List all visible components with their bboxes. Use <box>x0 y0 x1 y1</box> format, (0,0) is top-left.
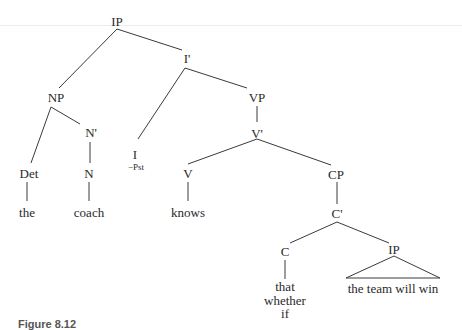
node-vp: VP <box>249 91 266 104</box>
edge-cbar-c <box>290 222 337 243</box>
edge-ibar-i <box>138 68 185 139</box>
edge-ibar-vp <box>185 68 247 88</box>
node-i-bar: I' <box>184 52 191 65</box>
complementizer-options: that whether if <box>264 280 306 321</box>
node-cp: CP <box>328 168 344 181</box>
node-c-bar: C' <box>331 207 342 220</box>
word-coach: coach <box>74 206 104 219</box>
node-c: C <box>281 245 290 258</box>
node-embedded-ip: IP <box>388 243 400 256</box>
edge-ip-np <box>59 29 117 88</box>
node-v: V <box>183 167 192 180</box>
node-n: N <box>84 167 93 180</box>
edge-ip-ibar <box>117 29 182 50</box>
node-n-bar: N' <box>85 126 97 139</box>
embedded-clause-text: the team will win <box>348 282 439 295</box>
edge-np-det <box>31 107 51 163</box>
word-knows: knows <box>171 206 205 219</box>
word-whether: whether <box>264 294 306 308</box>
node-np: NP <box>48 91 65 104</box>
infl-feature: −Pst <box>128 163 144 172</box>
word-that: that <box>264 280 306 294</box>
edge-vbar-v <box>188 139 257 164</box>
edge-cbar-ip <box>337 222 389 243</box>
node-infl: I <box>133 148 137 161</box>
node-v-bar: V' <box>251 127 263 140</box>
word-the: the <box>19 206 35 219</box>
word-if: if <box>264 307 306 321</box>
node-det: Det <box>20 167 39 180</box>
node-ip-root: IP <box>111 15 123 28</box>
edge-np-nbar <box>51 107 80 124</box>
ip-triangle <box>346 256 440 278</box>
figure-caption: Figure 8.12 <box>18 318 76 330</box>
edge-vbar-cp <box>257 139 331 165</box>
